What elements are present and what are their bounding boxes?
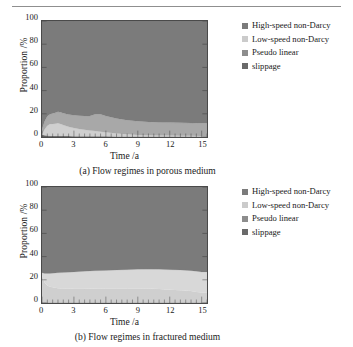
x-tick-15-b: 15 xyxy=(198,306,207,315)
legend-a: High-speed non-Darcy Low-speed non-Darcy… xyxy=(242,20,353,74)
y-tick-40-b: 40 xyxy=(16,248,38,257)
y-axis-ticks-a: 100 80 60 40 20 0 xyxy=(14,16,38,134)
x-axis-label-b: Time /a xyxy=(41,317,208,327)
x-tick-0-a: 0 xyxy=(39,140,43,149)
y-tick-80-a: 80 xyxy=(16,36,38,45)
area-series-high-speed-non-darcy xyxy=(42,21,207,129)
legend-label-low-speed-a: Low-speed non-Darcy xyxy=(252,35,329,44)
legend-item-low-speed-non-darcy-a[interactable]: Low-speed non-Darcy xyxy=(242,34,353,45)
x-tick-0-b: 0 xyxy=(39,306,43,315)
stacked-area-svg-a xyxy=(42,21,207,137)
plot-area-b: Proportion /% 100 80 60 40 20 0 0 3 6 9 … xyxy=(0,182,353,322)
chart-canvas-a xyxy=(41,20,208,138)
legend-swatch-icon-pseudo-linear-b xyxy=(242,216,248,222)
figure-caption-a: (a) Flow regimes in porous medium xyxy=(0,166,295,176)
y-tick-20-a: 20 xyxy=(16,106,38,115)
legend-label-high-speed-a: High-speed non-Darcy xyxy=(252,21,331,30)
legend-label-pseudo-linear-b: Pseudo linear xyxy=(252,214,299,223)
y-axis-ticks-b: 100 80 60 40 20 0 xyxy=(14,182,38,300)
y-tick-0-a: 0 xyxy=(16,129,38,138)
y-tick-60-b: 60 xyxy=(16,225,38,234)
y-tick-40-a: 40 xyxy=(16,82,38,91)
legend-swatch-icon-slippage-a xyxy=(242,63,248,69)
x-tick-12-a: 12 xyxy=(166,140,175,149)
legend-swatch-icon-high-speed-b xyxy=(242,189,248,195)
legend-item-slippage-a[interactable]: slippage xyxy=(242,61,353,72)
plot-area-a: Proportion /% 100 80 60 40 20 0 0 3 6 9 … xyxy=(0,16,353,156)
x-tick-9-a: 9 xyxy=(136,140,140,149)
legend-swatch-icon-slippage-b xyxy=(242,229,248,235)
top-divider-rule xyxy=(12,6,341,7)
legend-item-pseudo-linear-a[interactable]: Pseudo linear xyxy=(242,47,353,58)
y-tick-20-b: 20 xyxy=(16,272,38,281)
legend-swatch-icon-high-speed-a xyxy=(242,23,248,29)
area-series-high-speed-non-darcy xyxy=(42,187,207,273)
y-tick-100-b: 100 xyxy=(16,179,38,188)
y-tick-80-b: 80 xyxy=(16,202,38,211)
figure-panel-a: Proportion /% 100 80 60 40 20 0 0 3 6 9 … xyxy=(0,16,353,181)
x-tick-3-b: 3 xyxy=(71,306,75,315)
x-tick-6-a: 6 xyxy=(103,140,107,149)
legend-swatch-icon-low-speed-b xyxy=(242,202,248,208)
x-tick-9-b: 9 xyxy=(136,306,140,315)
x-axis-label-a: Time /a xyxy=(41,151,208,161)
figure-caption-b: (b) Flow regimes in fractured medium xyxy=(0,332,295,342)
stacked-area-svg-b xyxy=(42,187,207,303)
y-tick-0-b: 0 xyxy=(16,295,38,304)
x-tick-12-b: 12 xyxy=(166,306,175,315)
x-tick-3-a: 3 xyxy=(71,140,75,149)
legend-item-slippage-b[interactable]: slippage xyxy=(242,227,353,238)
legend-label-slippage-b: slippage xyxy=(252,228,281,237)
legend-label-slippage-a: slippage xyxy=(252,62,281,71)
figure-panel-b: Proportion /% 100 80 60 40 20 0 0 3 6 9 … xyxy=(0,182,353,347)
y-tick-100-a: 100 xyxy=(16,13,38,22)
x-tick-6-b: 6 xyxy=(103,306,107,315)
legend-label-pseudo-linear-a: Pseudo linear xyxy=(252,48,299,57)
legend-item-pseudo-linear-b[interactable]: Pseudo linear xyxy=(242,213,353,224)
chart-canvas-b xyxy=(41,186,208,304)
legend-item-low-speed-non-darcy-b[interactable]: Low-speed non-Darcy xyxy=(242,200,353,211)
y-tick-60-a: 60 xyxy=(16,59,38,68)
legend-swatch-icon-pseudo-linear-a xyxy=(242,50,248,56)
legend-item-high-speed-non-darcy-a[interactable]: High-speed non-Darcy xyxy=(242,20,353,31)
legend-label-low-speed-b: Low-speed non-Darcy xyxy=(252,201,329,210)
legend-label-high-speed-b: High-speed non-Darcy xyxy=(252,187,331,196)
legend-item-high-speed-non-darcy-b[interactable]: High-speed non-Darcy xyxy=(242,186,353,197)
legend-swatch-icon-low-speed-a xyxy=(242,36,248,42)
x-tick-15-a: 15 xyxy=(198,140,207,149)
area-series-slippage xyxy=(42,302,207,303)
legend-b: High-speed non-Darcy Low-speed non-Darcy… xyxy=(242,186,353,240)
